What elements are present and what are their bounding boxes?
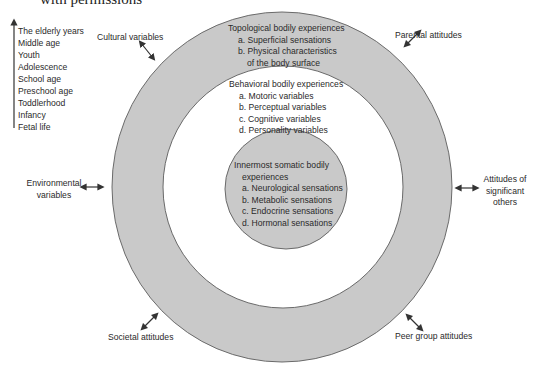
lifespan-list: The elderly years Middle age Youth Adole… [18, 25, 84, 133]
outer-ring-item: b. Physical characteristics [228, 46, 345, 58]
environmental-variables-label: Environmental variables [24, 178, 84, 201]
peer-arrow-icon [408, 316, 421, 329]
middle-ring-label: Behavioral bodily experiences a. Motoric… [229, 79, 343, 137]
inner-circle-item: c. Endocrine sensations [234, 206, 343, 218]
environmental-line: Environmental [24, 178, 84, 190]
inner-circle-label: Innermost somatic bodily experiences a. … [234, 160, 343, 230]
significant-line: Attitudes of [476, 174, 534, 186]
environmental-line: variables [24, 190, 84, 202]
societal-attitudes-label: Societal attitudes [108, 332, 173, 344]
lifespan-stage: Preschool age [18, 85, 84, 97]
significant-line: others [476, 197, 534, 209]
outer-ring-title: Topological bodily experiences [228, 23, 345, 35]
inner-circle-item: a. Neurological sensations [234, 183, 343, 195]
lifespan-stage: Middle age [18, 37, 84, 49]
societal-arrow-icon [143, 315, 156, 328]
outer-ring-item: of the body surface [228, 58, 345, 70]
cultural-arrow-icon [141, 43, 153, 58]
middle-ring-title: Behavioral bodily experiences [229, 79, 343, 91]
lifespan-stage: Toddlerhood [18, 97, 84, 109]
middle-ring-item: a. Motoric variables [229, 91, 343, 103]
inner-circle-title: Innermost somatic bodily [234, 160, 343, 172]
outer-ring-item: a. Superficial sensations [228, 35, 345, 47]
lifespan-stage: Youth [18, 49, 84, 61]
peer-group-attitudes-label: Peer group attitudes [395, 331, 472, 343]
lifespan-stage: School age [18, 73, 84, 85]
lifespan-stage: The elderly years [18, 25, 84, 37]
outer-ring-label: Topological bodily experiences a. Superf… [228, 23, 345, 69]
lifespan-stage: Infancy [18, 109, 84, 121]
middle-ring-item: d. Personality variables [229, 125, 343, 137]
parental-attitudes-label: Parental attitudes [395, 30, 462, 42]
significant-others-label: Attitudes of significant others [476, 174, 534, 209]
middle-ring-item: b. Perceptual variables [229, 102, 343, 114]
middle-ring-item: c. Cognitive variables [229, 114, 343, 126]
cultural-variables-label: Cultural variables [97, 32, 163, 44]
inner-circle-item: b. Metabolic sensations [234, 195, 343, 207]
significant-line: significant [476, 186, 534, 198]
lifespan-stage: Fetal life [18, 121, 84, 133]
inner-circle-title-cont: experiences [234, 172, 343, 184]
inner-circle-item: d. Hormonal sensations [234, 218, 343, 230]
lifespan-stage: Adolescence [18, 61, 84, 73]
